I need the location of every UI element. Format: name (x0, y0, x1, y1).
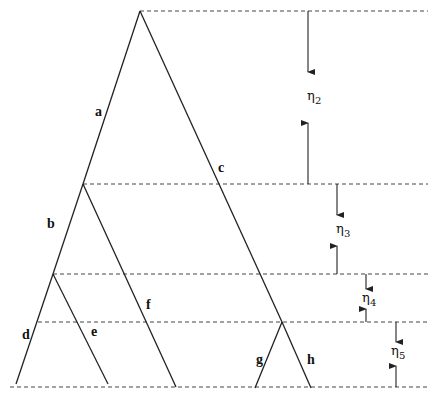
branch-f (83, 184, 176, 387)
coalescent-tree-diagram: a b c d e f g h η 2 η 3 η 4 η 5 (0, 0, 441, 399)
eta-4-subscript: 4 (370, 297, 376, 308)
label-c: c (218, 160, 224, 175)
branch-a (83, 11, 140, 184)
eta-2-symbol: η (307, 88, 315, 103)
interval-eta-5: η 5 (391, 322, 405, 387)
label-b: b (47, 216, 55, 231)
eta-4-symbol: η (362, 290, 370, 305)
branch-b (53, 184, 83, 274)
eta-2-subscript: 2 (315, 95, 321, 106)
label-e: e (91, 324, 97, 339)
interval-eta-3: η 3 (336, 184, 350, 274)
interval-eta-2: η 2 (307, 11, 321, 184)
eta-5-symbol: η (391, 343, 399, 358)
branch-e (53, 274, 108, 384)
eta-3-symbol: η (336, 221, 344, 236)
tree-branches (16, 11, 311, 388)
eta-3-subscript: 3 (344, 228, 350, 239)
eta-5-subscript: 5 (399, 350, 405, 361)
label-h: h (307, 352, 315, 367)
label-a: a (95, 104, 102, 119)
interval-eta-4: η 4 (362, 274, 376, 322)
branch-c (140, 11, 282, 322)
label-d: d (22, 327, 30, 342)
label-f: f (146, 297, 151, 312)
label-g: g (256, 352, 263, 367)
time-levels (10, 11, 428, 387)
